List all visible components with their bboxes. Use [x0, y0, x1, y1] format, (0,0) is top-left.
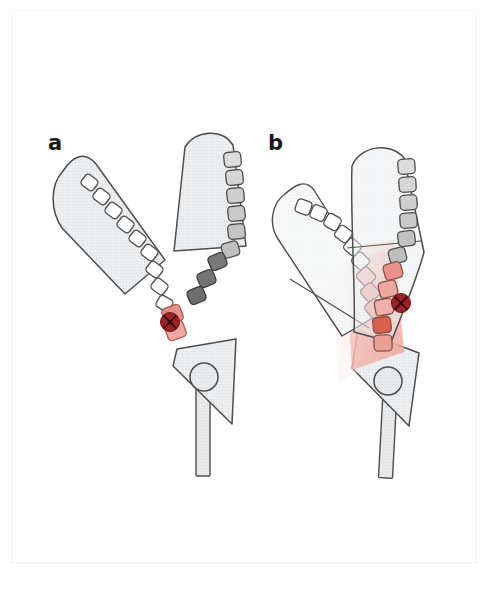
target-lesion-marker-a: [161, 313, 180, 332]
figure-root: a: [0, 0, 492, 592]
electrode: [227, 223, 245, 240]
electrode: [196, 268, 217, 288]
panel-a-pivot-joint: [190, 363, 218, 391]
panel-a: a: [48, 131, 246, 476]
electrode: [223, 151, 241, 168]
panel-a-shaft-assembly: [173, 339, 236, 476]
electrode: [227, 205, 245, 222]
panel-b-right-jaw: [347, 148, 424, 352]
electrode: [374, 298, 395, 317]
electrode: [226, 187, 244, 204]
figure-canvas: a: [0, 0, 492, 592]
electrode: [186, 285, 207, 305]
electrode: [399, 212, 417, 228]
panel-b-label: b: [268, 131, 283, 155]
caption-partial-text: [150, 576, 153, 589]
panel-a-label: a: [48, 131, 62, 155]
electrode: [225, 169, 243, 186]
electrode: [150, 277, 170, 296]
panel-a-right-jaw: [174, 133, 246, 305]
panel-a-left-jaw: [53, 156, 174, 313]
target-lesion-marker-b: [392, 294, 411, 313]
electrode: [398, 176, 416, 192]
panel-b-pivot-joint: [374, 367, 402, 395]
electrode: [397, 158, 415, 174]
caption-strip: [0, 576, 492, 592]
electrode: [374, 335, 393, 352]
electrode: [399, 194, 417, 210]
electrode: [397, 230, 416, 247]
panel-b: b: [268, 131, 424, 478]
electrode: [372, 316, 392, 334]
